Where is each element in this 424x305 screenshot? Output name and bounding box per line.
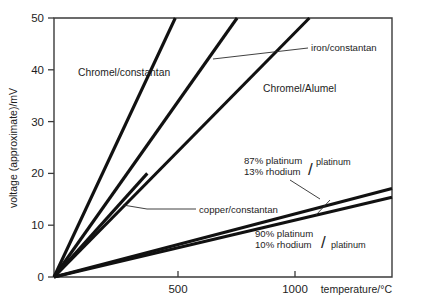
y-tick-label-20: 20 [31, 167, 44, 179]
label-chromel-alumel: Chromel/Alumel [263, 83, 336, 94]
label-platinum-90-line2: 10% rhodium [255, 239, 312, 250]
y-tick-label-50: 50 [31, 12, 44, 24]
label-copper-constantan: copper/constantan [199, 204, 278, 215]
y-axis-title: voltage (approximate)/mV [7, 88, 19, 208]
y-tick-label-0: 0 [38, 271, 44, 283]
curve-chromel-constantan [54, 18, 175, 277]
y-axis-ticks [48, 18, 54, 277]
label-chromel-constantan: Chromel/constantan [78, 67, 170, 78]
label-iron-constantan: iron/constantan [311, 42, 377, 53]
label-platinum-90-10: 90% platinum 10% rhodium / platinum [255, 228, 366, 252]
y-tick-label-30: 30 [31, 116, 44, 128]
label-platinum-90-line1: 90% platinum [255, 228, 313, 239]
label-platinum-87-13: 87% platinum 13% rhodium / platinum [244, 155, 351, 179]
curve-copper-constantan [54, 173, 147, 277]
x-axis-title: temperature/°C [321, 283, 393, 295]
label-platinum-90-slash: / [321, 233, 326, 252]
y-tick-label-10: 10 [31, 219, 44, 231]
x-tick-label-500: 500 [168, 283, 187, 295]
thermocouple-voltage-chart: 50 40 30 20 10 0 500 1000 voltage (appro… [0, 0, 424, 305]
x-tick-label-1000: 1000 [282, 283, 308, 295]
chart-container: 50 40 30 20 10 0 500 1000 voltage (appro… [0, 0, 424, 305]
label-platinum-87-slash: / [308, 160, 313, 179]
label-platinum-87-tail: platinum [316, 157, 351, 167]
label-platinum-87-line2: 13% rhodium [244, 166, 301, 177]
y-tick-label-40: 40 [31, 64, 44, 76]
curve-iron-constantan [54, 18, 237, 277]
label-platinum-90-tail: platinum [331, 240, 366, 250]
label-platinum-87-line1: 87% platinum [244, 155, 302, 166]
x-axis-ticks [178, 271, 295, 277]
